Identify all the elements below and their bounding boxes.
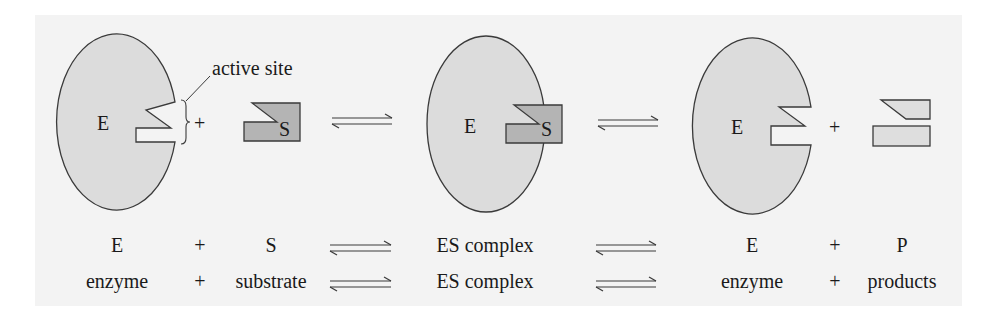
es-substrate-label: S (541, 118, 552, 140)
enzyme-label-2: E (731, 116, 743, 138)
eq-verbal-substrate: substrate (235, 270, 306, 292)
eq-verbal-enzyme: enzyme (86, 270, 148, 293)
eq-product: P (896, 234, 907, 256)
eq-plus-2: + (829, 234, 840, 256)
eq-verbal-product-enzyme: enzyme (721, 270, 783, 293)
plus-sign-1: + (194, 112, 205, 134)
enzyme-free-1: E (57, 34, 175, 210)
eq-verbal-plus-2: + (829, 270, 840, 292)
eq-verbal-plus-1: + (194, 270, 205, 292)
eq-verbal-intermediate: ES complex (436, 270, 533, 293)
eq-reactant-enzyme: E (111, 234, 123, 256)
enzyme-label: E (97, 112, 109, 134)
eq-product-enzyme: E (746, 234, 758, 256)
eq-verbal-products: products (868, 270, 937, 293)
active-site-label: active site (212, 57, 293, 79)
eq-reactant-substrate: S (265, 234, 276, 256)
enzyme-substrate-diagram: E active site + S E S E + E (0, 0, 1001, 319)
enzyme-free-2: E (692, 38, 811, 214)
eq-plus-1: + (194, 234, 205, 256)
substrate-label: S (279, 118, 290, 140)
es-enzyme-label: E (464, 115, 476, 137)
eq-intermediate: ES complex (436, 234, 533, 257)
plus-sign-2: + (829, 116, 840, 138)
